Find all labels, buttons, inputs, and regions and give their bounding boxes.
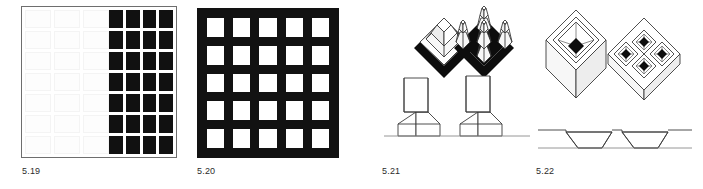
axonometric-single-court [546, 10, 606, 98]
void-cell [286, 101, 303, 120]
solid-cell [143, 136, 157, 154]
solid-cell [143, 52, 157, 70]
void-cell [286, 18, 303, 37]
solid-cell [126, 10, 140, 28]
void-cell [259, 74, 276, 93]
figure-5-21-caption: 5.21 [382, 166, 400, 176]
ghost-cell [83, 94, 109, 112]
ghost-cell [25, 31, 51, 49]
void-cell [312, 46, 329, 65]
ghost-cell [54, 115, 80, 133]
solid-cell [159, 73, 173, 91]
solid-cell [159, 52, 173, 70]
void-cell [233, 101, 250, 120]
ghost-cell [83, 52, 109, 70]
ghost-cell [83, 73, 109, 91]
figure-5-22-caption: 5.22 [536, 166, 554, 176]
ghost-cell [54, 94, 80, 112]
solid-cell [159, 136, 173, 154]
figure-5-19-ghost-grid [25, 10, 109, 154]
void-cell [207, 46, 224, 65]
solid-cell [159, 31, 173, 49]
solid-cell [109, 73, 123, 91]
ghost-cell [54, 52, 80, 70]
ghost-cell [83, 136, 109, 154]
axonometric-clustered-mass [454, 6, 514, 78]
elevation-left [398, 78, 440, 136]
void-cell [207, 101, 224, 120]
figure-5-19-solid-grid [109, 10, 173, 154]
solid-cell [159, 115, 173, 133]
solid-cell [126, 115, 140, 133]
void-cell [259, 129, 276, 148]
ghost-cell [83, 31, 109, 49]
ghost-cell [25, 94, 51, 112]
ghost-cell [25, 136, 51, 154]
void-cell [233, 129, 250, 148]
void-cell [233, 74, 250, 93]
figure-5-20-caption: 5.20 [197, 166, 215, 176]
void-cell [312, 74, 329, 93]
solid-cell [143, 10, 157, 28]
solid-cell [159, 10, 173, 28]
ghost-cell [25, 10, 51, 28]
figure-5-20-slab [197, 8, 339, 158]
ghost-cell [54, 31, 80, 49]
void-cell [233, 18, 250, 37]
void-cell [207, 129, 224, 148]
elevation-right [460, 76, 502, 136]
solid-cell [109, 94, 123, 112]
solid-cell [159, 94, 173, 112]
solid-cell [143, 31, 157, 49]
ghost-cell [25, 73, 51, 91]
solid-cell [126, 94, 140, 112]
ghost-cell [83, 10, 109, 28]
figure-5-20-void-grid [207, 18, 329, 148]
axonometric-four-courts [608, 18, 680, 100]
ghost-cell [54, 10, 80, 28]
cluster-tower [456, 20, 470, 49]
solid-cell [143, 115, 157, 133]
void-cell [312, 101, 329, 120]
void-cell [207, 74, 224, 93]
void-cell [259, 18, 276, 37]
solid-cell [126, 52, 140, 70]
void-cell [286, 129, 303, 148]
ghost-cell [54, 136, 80, 154]
void-cell [259, 101, 276, 120]
cluster-tower [498, 20, 512, 49]
ghost-cell [83, 115, 109, 133]
solid-cell [126, 31, 140, 49]
void-cell [286, 74, 303, 93]
section-two-pits [538, 130, 692, 148]
solid-cell [109, 136, 123, 154]
void-cell [286, 46, 303, 65]
void-cell [312, 18, 329, 37]
ghost-cell [25, 115, 51, 133]
solid-cell [109, 31, 123, 49]
figure-5-20 [197, 8, 339, 158]
ghost-cell [25, 52, 51, 70]
figure-5-22 [536, 6, 694, 158]
void-cell [259, 46, 276, 65]
void-cell [207, 18, 224, 37]
void-cell [312, 129, 329, 148]
solid-cell [143, 73, 157, 91]
figure-plate: 5.19 [0, 0, 703, 189]
solid-cell [143, 94, 157, 112]
figure-5-19-caption: 5.19 [22, 166, 40, 176]
figure-5-19 [21, 6, 177, 158]
ghost-cell [54, 73, 80, 91]
solid-cell [109, 10, 123, 28]
solid-cell [126, 73, 140, 91]
figure-5-21 [382, 6, 532, 158]
void-cell [233, 46, 250, 65]
solid-cell [126, 136, 140, 154]
solid-cell [109, 115, 123, 133]
solid-cell [109, 52, 123, 70]
